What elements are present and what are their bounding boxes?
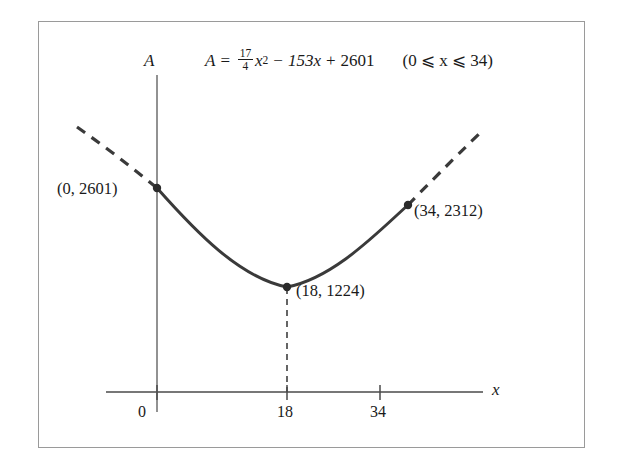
equation-linear-term: 153x bbox=[288, 52, 321, 69]
figure-root: A x A = 17 4 x2 − 153x + 2601 (0 ⩽ x ⩽ 3… bbox=[0, 0, 617, 466]
fraction-numerator: 17 bbox=[239, 47, 253, 59]
x-tick-label-18: 18 bbox=[277, 404, 293, 420]
equation-lhs: A bbox=[205, 52, 215, 69]
curve-solid-main bbox=[157, 188, 408, 287]
annotation-point-vertex: (18, 1224) bbox=[296, 283, 365, 300]
point-marker-18-1224 bbox=[283, 283, 291, 291]
equation-domain: (0 ⩽ x ⩽ 34) bbox=[403, 52, 493, 69]
equation-x-term: x bbox=[255, 52, 263, 69]
point-marker-0-2601 bbox=[153, 184, 161, 192]
equation-equals: = bbox=[220, 52, 230, 69]
x-axis-label: x bbox=[492, 381, 500, 398]
x-tick-label-34: 34 bbox=[370, 404, 386, 420]
y-axis-label: A bbox=[144, 52, 154, 69]
equation-constant: 2601 bbox=[341, 52, 375, 69]
fraction-17-over-4: 17 4 bbox=[238, 47, 253, 73]
x-tick-label-0: 0 bbox=[138, 404, 146, 420]
annotation-point-left: (0, 2601) bbox=[57, 181, 118, 198]
curve-dashed-right bbox=[408, 132, 481, 205]
equation-minus: − bbox=[273, 52, 283, 69]
equation-plus: + bbox=[326, 52, 336, 69]
equation-expression: A = 17 4 x2 − 153x + 2601 (0 ⩽ x ⩽ 34) bbox=[205, 48, 493, 74]
point-marker-34-2312 bbox=[404, 201, 412, 209]
annotation-point-right: (34, 2312) bbox=[414, 203, 483, 220]
fraction-denominator: 4 bbox=[242, 60, 250, 72]
